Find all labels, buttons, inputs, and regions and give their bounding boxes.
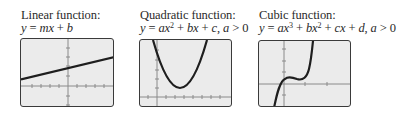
formula-plus: + [345,21,358,35]
axes [140,40,232,107]
formula-plus: + [293,21,306,35]
formula-bx: bx [306,21,318,35]
axes [259,41,351,107]
formula-equals: = [26,21,39,35]
linear-title: Linear function: [21,9,100,21]
quadratic-graph-screen [139,39,232,107]
cubic-curve [274,41,313,107]
formula-mx: mx [39,21,53,35]
quadratic-curve [153,40,207,88]
quadratic-title: Quadratic function: [140,9,236,21]
formula-ax: ax [158,21,170,35]
formula-cx: cx [334,21,345,35]
formula-gt-zero: > 0 [377,21,396,35]
formula-equals: = [264,21,277,35]
cubic-graph [259,41,351,107]
linear-formula: y = mx + b [21,22,73,34]
formula-b: b [67,21,73,35]
cubic-formula: y = ax3 + bx2 + cx + d, a > 0 [259,22,396,34]
formula-plus: + [321,21,334,35]
formula-bx: bx [187,21,199,35]
formula-gt-zero: > 0 [229,21,248,35]
cubic-title: Cubic function: [259,9,336,21]
linear-graph-screen [20,38,114,107]
linear-graph [21,39,114,107]
quadratic-formula: y = ax2 + bx + c, a > 0 [140,22,248,34]
formula-plus: + [199,21,212,35]
formula-plus: + [54,21,67,35]
axes [21,39,114,107]
quadratic-graph [140,40,232,107]
cubic-graph-screen [258,40,351,107]
formula-equals: = [145,21,158,35]
formula-plus: + [174,21,187,35]
formula-ax: ax [277,21,289,35]
